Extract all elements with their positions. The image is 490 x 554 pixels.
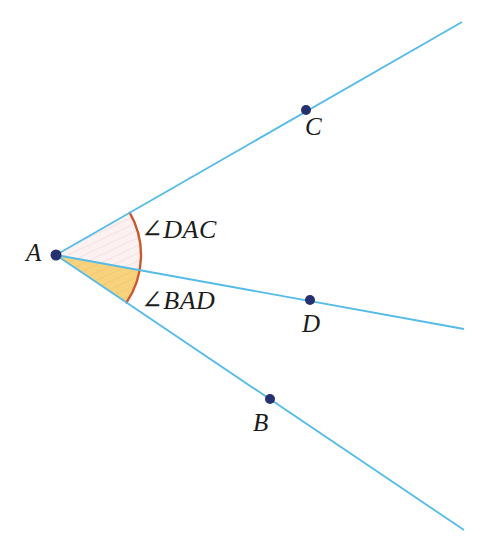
angle-label-bad: ∠BAD	[141, 285, 215, 316]
geometry-figure: A C D B ∠DAC ∠BAD	[0, 0, 490, 554]
point-d-dot	[305, 295, 315, 305]
ray-ac-line	[56, 22, 462, 255]
point-label-d: D	[302, 309, 320, 339]
point-label-b: B	[253, 408, 268, 438]
point-label-c: C	[305, 112, 322, 142]
point-a-dot	[51, 250, 62, 261]
geometry-canvas	[0, 0, 490, 554]
ray-ab-line	[56, 255, 464, 530]
point-b-dot	[265, 394, 275, 404]
angle-label-dac: ∠DAC	[141, 214, 217, 245]
point-label-a: A	[26, 238, 41, 268]
